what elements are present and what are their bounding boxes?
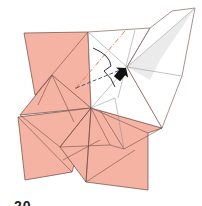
origami-diagram (0, 0, 202, 206)
fold-reference-point (75, 87, 77, 89)
step-number: 20 (14, 199, 32, 206)
